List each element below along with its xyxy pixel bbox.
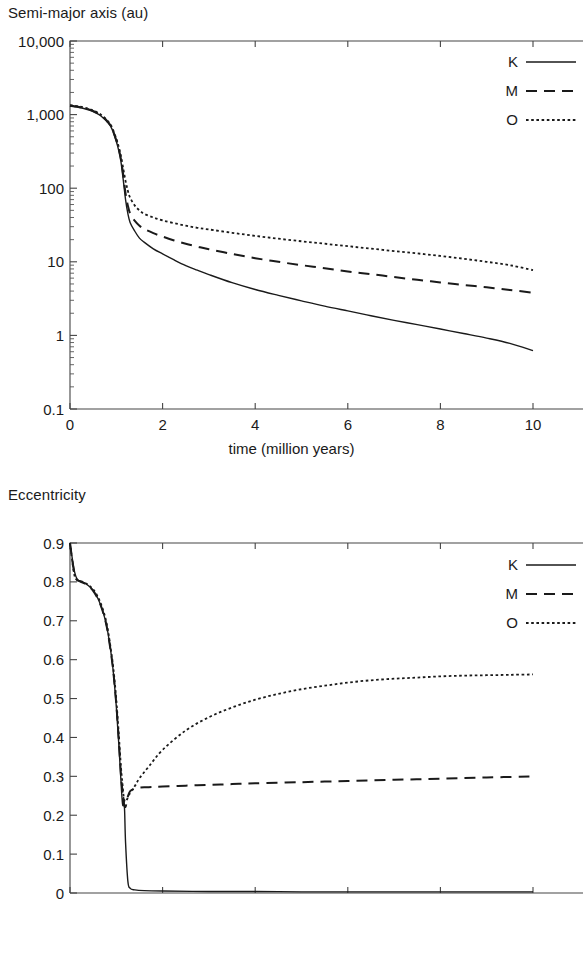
y-axis-ticks: 0.11101001,00010,000 bbox=[18, 33, 77, 418]
series-line-o bbox=[70, 543, 533, 802]
semimajor-x-axis-label: time (million years) bbox=[0, 440, 583, 457]
legend-label-o: O bbox=[506, 614, 518, 631]
y-tick-label: 10,000 bbox=[18, 33, 64, 50]
y-tick-label: 10 bbox=[47, 253, 64, 270]
y-axis-ticks: 00.10.20.30.40.50.60.70.80.9 bbox=[43, 535, 77, 901]
y-tick-label: 0.6 bbox=[43, 651, 64, 668]
y-tick-label: 0.7 bbox=[43, 612, 64, 629]
figure-eccentricity: Eccentricity 00.10.20.30.40.50.60.70.80.… bbox=[0, 480, 583, 953]
y-tick-label: 0.1 bbox=[43, 846, 64, 863]
series-line-m bbox=[70, 543, 533, 807]
series-line-m bbox=[70, 106, 533, 293]
y-tick-label: 1,000 bbox=[26, 106, 64, 123]
x-tick-label: 6 bbox=[344, 416, 352, 430]
x-tick-label: 2 bbox=[158, 416, 166, 430]
series-line-k bbox=[70, 106, 533, 350]
eccentricity-plot: 00.10.20.30.40.50.60.70.80.90246810KMO bbox=[0, 480, 583, 900]
legend: KMO bbox=[506, 53, 577, 128]
x-tick-label: 10 bbox=[525, 416, 542, 430]
data-series-group bbox=[70, 105, 533, 350]
y-tick-label: 0.2 bbox=[43, 807, 64, 824]
y-tick-label: 0.3 bbox=[43, 768, 64, 785]
y-tick-label: 0.1 bbox=[43, 401, 64, 418]
series-line-o bbox=[70, 105, 533, 270]
figure-semi-major-axis: Semi-major axis (au) 0.11101001,00010,00… bbox=[0, 0, 583, 470]
y-tick-label: 1 bbox=[56, 327, 64, 344]
y-tick-label: 0 bbox=[56, 885, 64, 901]
semimajor-plot: 0.11101001,00010,0000246810KMO bbox=[0, 0, 583, 430]
legend-label-m: M bbox=[506, 82, 519, 99]
y-tick-label: 0.9 bbox=[43, 535, 64, 552]
x-axis-ticks: 0246810 bbox=[66, 543, 542, 900]
legend-label-k: K bbox=[508, 556, 518, 573]
y-tick-label: 0.5 bbox=[43, 690, 64, 707]
y-tick-label: 100 bbox=[39, 180, 64, 197]
series-line-k bbox=[70, 543, 533, 892]
legend-label-k: K bbox=[508, 53, 518, 70]
x-tick-label: 4 bbox=[251, 416, 259, 430]
x-tick-label: 8 bbox=[436, 416, 444, 430]
legend: KMO bbox=[506, 556, 577, 631]
y-tick-label: 0.4 bbox=[43, 729, 64, 746]
data-series-group bbox=[70, 543, 533, 892]
x-tick-label: 0 bbox=[66, 416, 74, 430]
y-tick-label: 0.8 bbox=[43, 573, 64, 590]
legend-label-m: M bbox=[506, 585, 519, 602]
legend-label-o: O bbox=[506, 111, 518, 128]
